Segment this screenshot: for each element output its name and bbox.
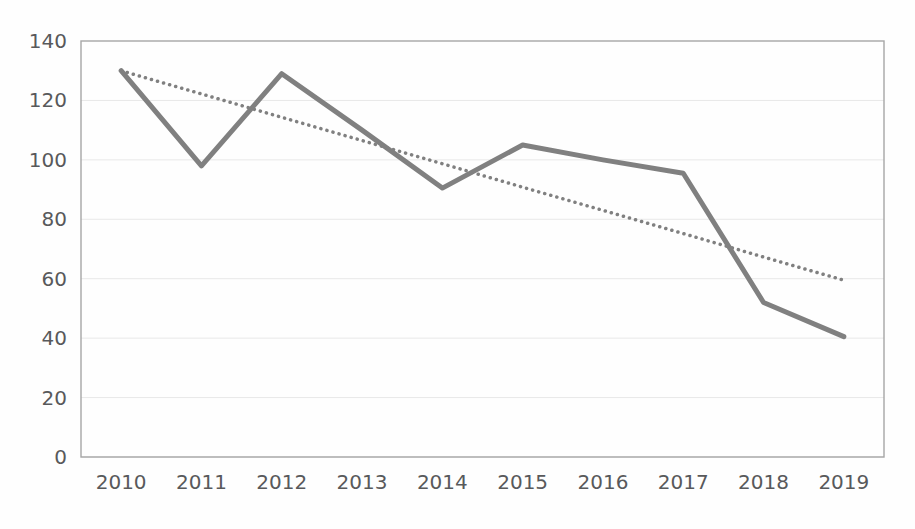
x-tick-label-2016: 2016 bbox=[577, 470, 628, 494]
x-tick-label-2014: 2014 bbox=[417, 470, 468, 494]
y-tick-label-100: 100 bbox=[29, 148, 67, 172]
x-tick-label-2012: 2012 bbox=[256, 470, 307, 494]
plot-border bbox=[81, 41, 884, 457]
x-tick-label-2017: 2017 bbox=[658, 470, 709, 494]
y-tick-label-60: 60 bbox=[42, 267, 67, 291]
x-tick-label-2019: 2019 bbox=[818, 470, 869, 494]
line-chart: 020406080100120140 201020112012201320142… bbox=[0, 0, 915, 529]
data-series-group bbox=[121, 71, 844, 337]
y-tick-label-120: 120 bbox=[29, 88, 67, 112]
y-tick-label-40: 40 bbox=[42, 326, 67, 350]
y-tick-label-0: 0 bbox=[54, 445, 67, 469]
x-axis-tick-labels: 2010201120122013201420152016201720182019 bbox=[96, 470, 870, 494]
chart-container: 020406080100120140 201020112012201320142… bbox=[0, 0, 915, 529]
data-series-path-0 bbox=[121, 71, 844, 337]
x-tick-label-2018: 2018 bbox=[738, 470, 789, 494]
x-tick-label-2011: 2011 bbox=[176, 470, 227, 494]
y-axis-tick-labels: 020406080100120140 bbox=[29, 29, 67, 469]
y-tick-label-80: 80 bbox=[42, 207, 67, 231]
plot-area-border bbox=[81, 41, 884, 457]
x-tick-label-2015: 2015 bbox=[497, 470, 548, 494]
grid-lines bbox=[81, 100, 884, 457]
x-tick-label-2010: 2010 bbox=[96, 470, 147, 494]
y-tick-label-140: 140 bbox=[29, 29, 67, 53]
x-tick-label-2013: 2013 bbox=[337, 470, 388, 494]
trendline-path bbox=[121, 71, 844, 280]
y-tick-label-20: 20 bbox=[42, 386, 67, 410]
